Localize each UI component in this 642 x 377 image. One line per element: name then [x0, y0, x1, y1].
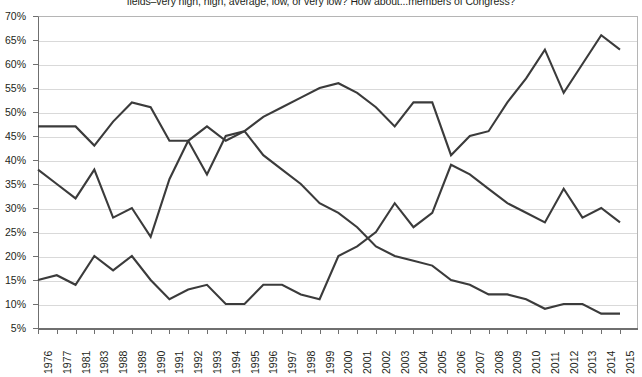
series-line-1	[38, 35, 620, 237]
series-layer	[0, 0, 642, 377]
series-line-2	[38, 165, 620, 304]
line-chart: fields–very high, high, average, low, or…	[0, 0, 642, 377]
series-line-0	[38, 102, 620, 313]
